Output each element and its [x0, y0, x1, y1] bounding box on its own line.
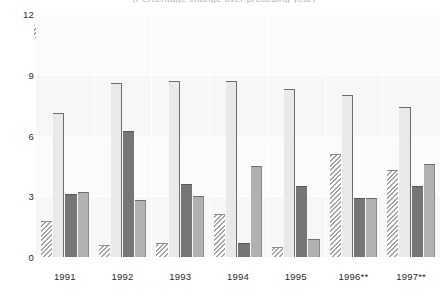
- bar: [111, 83, 122, 257]
- bar: [284, 89, 295, 257]
- bar: [354, 198, 365, 257]
- x-axis: 199119921993199419951996**1997**: [36, 257, 440, 293]
- y-axis-tick-label: 9: [8, 69, 34, 80]
- bar: [330, 154, 341, 257]
- bar: [214, 214, 225, 257]
- bar: [41, 221, 52, 257]
- y-axis-tick-label: 0: [8, 252, 34, 263]
- bar: [169, 81, 180, 257]
- bar: [399, 107, 410, 257]
- x-axis-tick-label: 1995: [285, 271, 307, 282]
- bar-group: [151, 14, 209, 257]
- bar: [65, 194, 76, 257]
- bar: [99, 245, 110, 257]
- bar: [156, 243, 167, 257]
- bar: [342, 95, 353, 257]
- x-axis-tick-label: 1992: [112, 271, 134, 282]
- bar: [78, 192, 89, 257]
- bar-group: [94, 14, 152, 257]
- x-axis-tick-label: 1991: [54, 271, 76, 282]
- bar-group: [36, 14, 94, 257]
- bar: [123, 131, 134, 257]
- x-axis-tick-label: 1997**: [396, 271, 426, 282]
- bar: [53, 113, 64, 257]
- bar-chart: (Percentage change over preceding year) …: [0, 0, 448, 293]
- y-axis-tick-label: 6: [8, 130, 34, 141]
- bar: [226, 81, 237, 257]
- bar: [238, 243, 249, 257]
- bar: [251, 166, 262, 257]
- x-axis-tick-label: 1994: [227, 271, 249, 282]
- bar-group: [209, 14, 267, 257]
- x-axis-tick-label: 1996**: [339, 271, 369, 282]
- bar-group: [267, 14, 325, 257]
- bar: [424, 164, 435, 257]
- y-axis-tick-label: 3: [8, 191, 34, 202]
- x-axis-tick-label: 1993: [169, 271, 191, 282]
- bar: [296, 186, 307, 257]
- bar-group: [382, 14, 440, 257]
- bar: [412, 186, 423, 257]
- chart-title: (Percentage change over preceding year): [0, 0, 448, 3]
- plot-area: [36, 14, 440, 257]
- y-axis-tick-label: 12: [8, 9, 34, 20]
- bar-groups: [36, 14, 440, 257]
- bar-group: [325, 14, 383, 257]
- bar: [181, 184, 192, 257]
- bar: [387, 170, 398, 257]
- bar: [272, 247, 283, 257]
- bar: [366, 198, 377, 257]
- bar: [193, 196, 204, 257]
- bar: [308, 239, 319, 257]
- y-axis: 036912: [0, 0, 34, 293]
- bar: [135, 200, 146, 257]
